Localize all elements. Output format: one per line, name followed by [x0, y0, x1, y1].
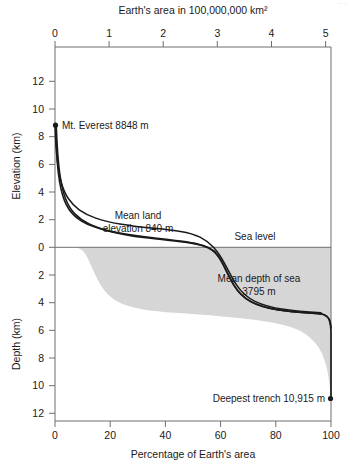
- top-axis-tick-0: 0: [52, 27, 58, 39]
- top-axis-tick-2: 2: [160, 27, 166, 39]
- top-axis-title: Earth's area in 100,000,000 km²: [118, 4, 268, 16]
- depth-tick-12: 12: [32, 407, 44, 419]
- elevation-tick-10: 10: [32, 103, 44, 115]
- deepest-trench-annotation-label: Deepest trench 10,915 m: [213, 393, 325, 404]
- deepest-trench-marker-dot: [328, 396, 333, 401]
- watermark-text: •••••: [338, 1, 347, 6]
- top-axis-ticks: [55, 41, 326, 47]
- top-axis-tick-1: 1: [106, 27, 112, 39]
- left-axis-ticks-elevation: [49, 81, 55, 247]
- depth-tick-6: 6: [38, 324, 44, 336]
- mean-depth-of-sea-line2: 3795 m: [242, 286, 275, 297]
- top-axis-tick-5: 5: [323, 27, 329, 39]
- top-axis-tick-3: 3: [214, 27, 220, 39]
- elevation-tick-2: 2: [38, 213, 44, 225]
- elevation-tick-4: 4: [38, 186, 44, 198]
- mean-land-elevation-line2: elevation 840 m: [103, 223, 174, 234]
- hypsographic-chart: Earth's area in 100,000,000 km² 0 1 2 3 …: [0, 0, 351, 462]
- elevation-axis-title: Elevation (km): [10, 132, 22, 199]
- bottom-axis-tick-80: 80: [270, 429, 282, 441]
- elevation-tick-8: 8: [38, 130, 44, 142]
- depth-tick-8: 8: [38, 352, 44, 364]
- bottom-axis-tick-20: 20: [104, 429, 116, 441]
- chart-canvas: Earth's area in 100,000,000 km² 0 1 2 3 …: [0, 0, 351, 462]
- elevation-tick-12: 12: [32, 75, 44, 87]
- top-axis-tick-4: 4: [269, 27, 275, 39]
- everest-marker-dot: [53, 123, 58, 128]
- left-axis-ticks-depth: [49, 275, 55, 413]
- depth-tick-10: 10: [32, 379, 44, 391]
- bottom-axis-tick-100: 100: [322, 429, 340, 441]
- bottom-axis-tick-40: 40: [160, 429, 172, 441]
- depth-tick-2: 2: [38, 269, 44, 281]
- depth-tick-4: 4: [38, 296, 44, 308]
- depth-axis-title: Depth (km): [10, 318, 22, 370]
- elevation-tick-0: 0: [38, 241, 44, 253]
- bottom-axis-ticks: [55, 421, 331, 427]
- elevation-tick-6: 6: [38, 158, 44, 170]
- mean-land-elevation-line1: Mean land: [115, 210, 162, 221]
- bottom-axis-title: Percentage of Earth's area: [131, 448, 256, 460]
- mean-depth-of-sea-line1: Mean depth of sea: [218, 273, 301, 284]
- everest-annotation-label: Mt. Everest 8848 m: [62, 120, 149, 131]
- sea-level-label: Sea level: [234, 231, 275, 242]
- bottom-axis-tick-0: 0: [52, 429, 58, 441]
- bottom-axis-tick-60: 60: [215, 429, 227, 441]
